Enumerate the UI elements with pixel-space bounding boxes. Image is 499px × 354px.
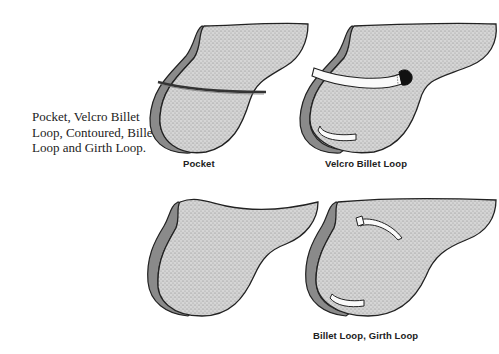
pad-label-pocket: Pocket xyxy=(183,158,215,169)
saddle-pad-velcro-billet-loop xyxy=(300,22,499,157)
pad-body xyxy=(316,199,496,316)
saddle-pad-pocket xyxy=(140,22,310,157)
pad-body xyxy=(310,23,496,153)
pad-label-billet-loop-girth-loop: Billet Loop, Girth Loop xyxy=(313,330,418,341)
pad-label-velcro-billet-loop: Velcro Billet Loop xyxy=(325,158,407,169)
saddle-pad-billet-loop-girth-loop xyxy=(302,196,499,321)
saddle-pad-contoured xyxy=(146,196,321,321)
pad-body xyxy=(158,199,318,316)
